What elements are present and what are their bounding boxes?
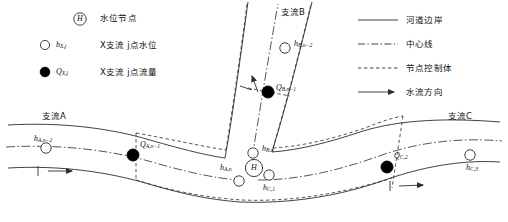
label-Q-A-n-1: QA,n−1: [140, 141, 160, 150]
legend-symbol-h: hX,j: [56, 41, 66, 50]
node-Q-A-n-1[interactable]: [127, 149, 139, 161]
river-network-svg: [0, 0, 508, 222]
label-Q-A-n-1-sub: A,n−1: [146, 143, 160, 149]
node-h-C-1[interactable]: [264, 170, 274, 180]
node-h-C-3[interactable]: [465, 150, 475, 160]
legend-symbol-H: H: [77, 15, 83, 23]
label-h-C-1: hC,1: [263, 184, 275, 193]
label-Q-C-2: QC,2: [394, 152, 408, 161]
legend-right-samples: [358, 20, 398, 92]
legend-symbol-h-sub: X,j: [60, 43, 66, 49]
label-h-A-n-2-sub: A,n−2: [38, 137, 52, 143]
control-volume-B-right: [273, 4, 311, 148]
label-h-A-n: hA,n: [220, 164, 232, 173]
label-h-B-n-2-sub: B,n−2: [298, 42, 312, 48]
node-h-B-n[interactable]: [248, 148, 258, 158]
label-h-B-n: hB,n: [262, 145, 274, 154]
label-h-B-n-2: hB,n−2: [294, 40, 312, 49]
bank-C-upper: [272, 120, 500, 152]
branch-label-B: 支流B: [281, 8, 305, 17]
label-h-C-3-sub: C,3: [470, 166, 478, 172]
legend-circle-open-icon: [40, 40, 49, 49]
legend-circle-filled-icon: [40, 67, 50, 77]
bank-C-lower: [240, 162, 500, 203]
branch-label-C: 支流C: [448, 112, 472, 121]
label-h-A-n-sub: A,n: [224, 166, 232, 172]
label-h-C-3: hC,3: [466, 164, 478, 173]
node-Q-C-2[interactable]: [381, 161, 393, 173]
legend-desc-control-volume: 节点控制体: [406, 64, 452, 73]
legend-desc-h: X支流 j点水位: [100, 41, 158, 50]
branch-label-A: 支流A: [42, 112, 66, 121]
control-volume-A-lower: [136, 180, 242, 200]
legend-symbol-Q-sub: X,j: [62, 70, 68, 76]
legend-desc-Q: X支流 j点流量: [100, 68, 158, 77]
flow-tick-B: [240, 86, 252, 90]
label-junction-H: H: [251, 164, 257, 172]
legend-symbol-Q: QX,j: [56, 68, 68, 77]
control-volume-B-left: [226, 4, 247, 150]
legend-desc-flow-direction: 水流方向: [406, 88, 443, 97]
flow-direction-arrows: [38, 76, 423, 191]
legend-desc-water-level-node: 水位节点: [100, 14, 137, 23]
node-h-A-n-2[interactable]: [41, 143, 51, 153]
centerline-A: [6, 146, 238, 180]
label-h-A-n-2: hA,n−2: [34, 135, 52, 144]
flow-arrow-C: [399, 185, 423, 186]
legend-desc-riverbank: 河道边岸: [406, 16, 443, 25]
bank-A-lower: [8, 167, 240, 202]
node-Q-B-n-1[interactable]: [262, 86, 274, 98]
node-h-A-n[interactable]: [234, 176, 244, 186]
diagram-canvas: H 水位节点 hX,j X支流 j点水位 QX,j X支流 j点流量 河道边岸 …: [0, 0, 508, 222]
label-Q-B-n-1-sub: B,n−1: [282, 86, 296, 92]
label-h-B-n-sub: B,n: [266, 147, 274, 153]
label-h-C-1-sub: C,1: [267, 186, 275, 192]
control-volume-C-upper: [273, 116, 403, 148]
legend-desc-centerline: 中心线: [406, 40, 434, 49]
label-Q-C-2-sub: C,2: [400, 154, 408, 160]
node-h-B-n-2[interactable]: [280, 43, 290, 53]
centerline-C: [258, 140, 502, 180]
label-Q-B-n-1: QB,n−1: [276, 84, 296, 93]
